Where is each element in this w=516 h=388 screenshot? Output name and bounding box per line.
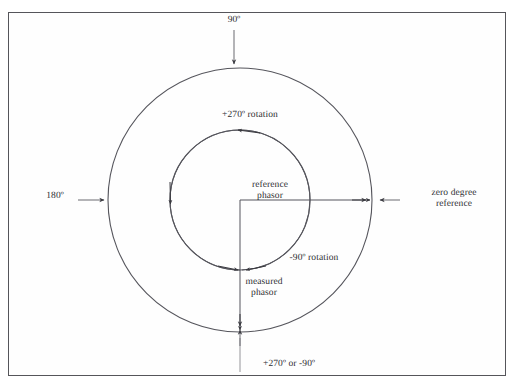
- plus-270-rotation-arrowhead-left: [170, 182, 171, 204]
- label-zero-degree-reference: zero degree reference: [406, 188, 502, 210]
- label-reference-phasor-line2: phasor: [238, 191, 302, 202]
- label-reference-phasor: reference phasor: [238, 180, 302, 202]
- label-zero-degree-reference-line1: zero degree: [406, 188, 502, 199]
- label-measured-phasor: measured phasor: [232, 277, 296, 299]
- label-plus-270-rotation: +270º rotation: [196, 110, 304, 121]
- figure-page: 90º 180º zero degree reference +270º rot…: [0, 0, 516, 388]
- minus-90-rotation-arrowhead: [246, 266, 266, 270]
- label-180-degrees: 180º: [37, 191, 73, 202]
- label-zero-degree-reference-line2: reference: [406, 199, 502, 210]
- label-270-or-minus-90: +270º or -90º: [234, 359, 344, 370]
- label-reference-phasor-line1: reference: [238, 180, 302, 191]
- label-minus-90-rotation: -90º rotation: [274, 253, 354, 264]
- label-measured-phasor-line1: measured: [232, 277, 296, 288]
- label-90-degrees: 90º: [207, 15, 261, 26]
- label-measured-phasor-line2: phasor: [232, 288, 296, 299]
